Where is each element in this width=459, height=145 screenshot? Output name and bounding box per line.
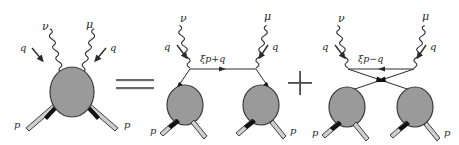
proton-line-left-out bbox=[353, 122, 369, 141]
photon-line-nu bbox=[49, 29, 62, 73]
diagram-rhs-direct: ν μ q q ξp+q p p bbox=[150, 10, 297, 139]
label-proton-p-right: p bbox=[290, 125, 297, 136]
label-photon-mu: μ bbox=[86, 18, 93, 31]
diagram-canvas: ν μ q q p p = bbox=[0, 0, 459, 145]
label-photon-nu: ν bbox=[338, 12, 345, 25]
label-photon-nu: ν bbox=[180, 12, 187, 25]
label-proton-p-right: p bbox=[444, 127, 451, 138]
label-proton-p-right: p bbox=[124, 119, 131, 130]
proton-line-right-out bbox=[270, 120, 286, 139]
proton-line-right-out bbox=[424, 122, 440, 141]
proton-line-left-out bbox=[191, 120, 207, 139]
photon-line-mu bbox=[256, 25, 267, 68]
label-proton-p-left: p bbox=[14, 119, 21, 130]
label-photon-nu: ν bbox=[42, 20, 49, 33]
photon-line-nu bbox=[179, 25, 190, 68]
operator-equals: = bbox=[116, 79, 154, 89]
diagram-rhs-crossed: ν μ q q ξp−q p p bbox=[312, 10, 451, 141]
label-internal-momentum: ξp+q bbox=[200, 53, 225, 64]
operator-plus: + bbox=[288, 71, 312, 95]
label-proton-p-left: p bbox=[312, 127, 319, 138]
hadron-blob bbox=[50, 67, 94, 117]
internal-propagator-arrowhead bbox=[378, 67, 385, 72]
internal-propagator-arrowhead bbox=[219, 67, 226, 72]
label-momentum-q-left: q bbox=[20, 42, 26, 53]
hadron-blob-left bbox=[329, 87, 365, 127]
label-photon-mu: μ bbox=[422, 10, 429, 23]
photon-line-mu bbox=[414, 25, 425, 68]
label-momentum-q-right: q bbox=[110, 42, 116, 53]
label-internal-momentum: ξp−q bbox=[358, 53, 383, 64]
label-momentum-q-right: q bbox=[430, 41, 436, 52]
label-proton-p-left: p bbox=[150, 125, 157, 136]
momentum-arrow-q-left bbox=[32, 48, 42, 60]
hadron-blob-left bbox=[167, 85, 203, 125]
hadron-blob-right bbox=[243, 85, 279, 125]
label-momentum-q-left: q bbox=[322, 41, 328, 52]
photon-line-nu bbox=[337, 25, 348, 68]
diagram-lhs-handbag: ν μ q q p p bbox=[14, 18, 131, 131]
label-momentum-q-left: q bbox=[164, 41, 170, 52]
label-photon-mu: μ bbox=[264, 10, 271, 23]
hadron-blob-right bbox=[397, 87, 433, 127]
label-momentum-q-right: q bbox=[272, 41, 278, 52]
feynman-diagram-figure: ν μ q q p p = bbox=[0, 0, 459, 145]
photon-line-mu bbox=[82, 29, 95, 73]
momentum-arrow-q-right bbox=[96, 48, 106, 60]
